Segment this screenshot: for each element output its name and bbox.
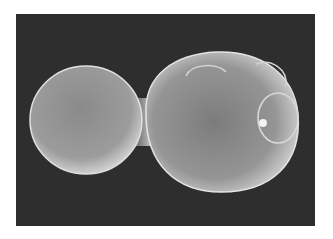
bud-scar-spot xyxy=(259,119,267,127)
mother-cell xyxy=(146,52,298,192)
yeast-cell-illustration xyxy=(16,14,315,226)
micrograph-frame xyxy=(16,14,315,226)
daughter-cell xyxy=(30,66,142,174)
